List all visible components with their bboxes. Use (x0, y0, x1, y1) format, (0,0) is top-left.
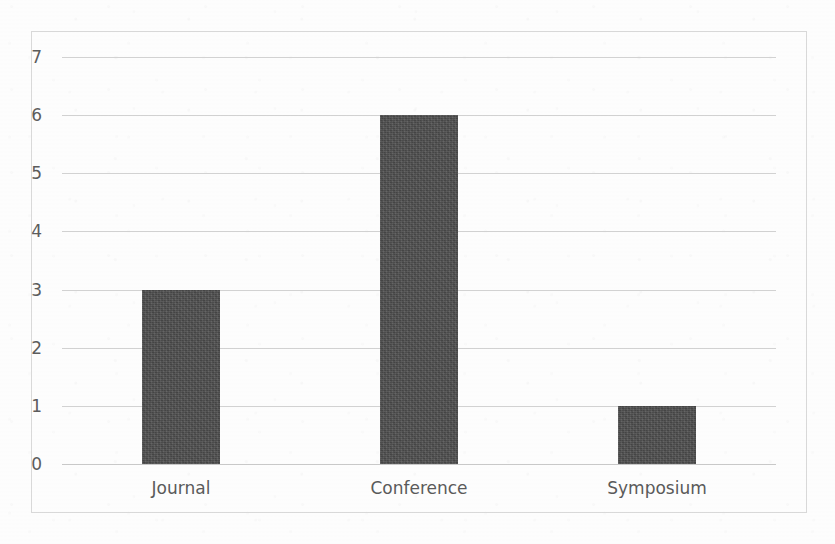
bar-journal[interactable] (142, 290, 220, 464)
y-axis-tick-label-7: 7 (16, 49, 42, 66)
y-axis-tick-label-6: 6 (16, 107, 42, 124)
bar-symposium[interactable] (618, 406, 696, 464)
gridline-0 (62, 464, 776, 465)
x-axis-category-label-symposium: Symposium (538, 480, 776, 497)
x-axis-category-label-conference: Conference (300, 480, 538, 497)
y-axis-tick-label-2: 2 (16, 340, 42, 357)
y-axis-tick-label-0: 0 (16, 456, 42, 473)
y-axis-tick-label-3: 3 (16, 282, 42, 299)
y-axis-tick-label-4: 4 (16, 223, 42, 240)
bar-conference[interactable] (380, 115, 458, 464)
y-axis-tick-label-1: 1 (16, 398, 42, 415)
x-axis-category-label-journal: Journal (62, 480, 300, 497)
y-axis-tick-label-5: 5 (16, 165, 42, 182)
gridline-7 (62, 57, 776, 58)
